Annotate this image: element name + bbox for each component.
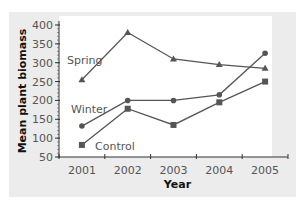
- y-tick-label: 150: [32, 113, 53, 126]
- y-axis-title: Mean plant biomass: [16, 28, 29, 153]
- square-marker: [79, 142, 85, 148]
- circle-marker: [125, 98, 131, 104]
- y-tick-label: 200: [32, 94, 53, 107]
- circle-marker: [217, 92, 223, 98]
- square-marker: [216, 99, 222, 105]
- series-label-winter: Winter: [71, 103, 108, 116]
- series-label-control: Control: [95, 140, 135, 153]
- circle-marker: [79, 123, 85, 129]
- y-tick-label: 350: [32, 38, 53, 51]
- circle-marker: [171, 98, 177, 104]
- y-tick-label: 250: [32, 76, 53, 89]
- series-label-spring: Spring: [67, 54, 103, 67]
- x-axis-title: Year: [163, 178, 192, 191]
- line-chart: 5010015020025030035040020012002200320042…: [0, 0, 306, 201]
- x-tick-label: 2002: [114, 164, 142, 177]
- square-marker: [262, 79, 268, 85]
- square-marker: [125, 106, 131, 112]
- y-tick-label: 400: [32, 19, 53, 32]
- x-tick-label: 2005: [251, 164, 279, 177]
- circle-marker: [262, 50, 268, 56]
- x-tick-label: 2003: [160, 164, 188, 177]
- y-tick-label: 300: [32, 57, 53, 70]
- x-tick-label: 2004: [205, 164, 233, 177]
- x-tick-label: 2001: [68, 164, 96, 177]
- square-marker: [171, 122, 177, 128]
- y-tick-label: 50: [39, 151, 53, 164]
- y-tick-label: 100: [32, 132, 53, 145]
- plot-area: [59, 16, 272, 157]
